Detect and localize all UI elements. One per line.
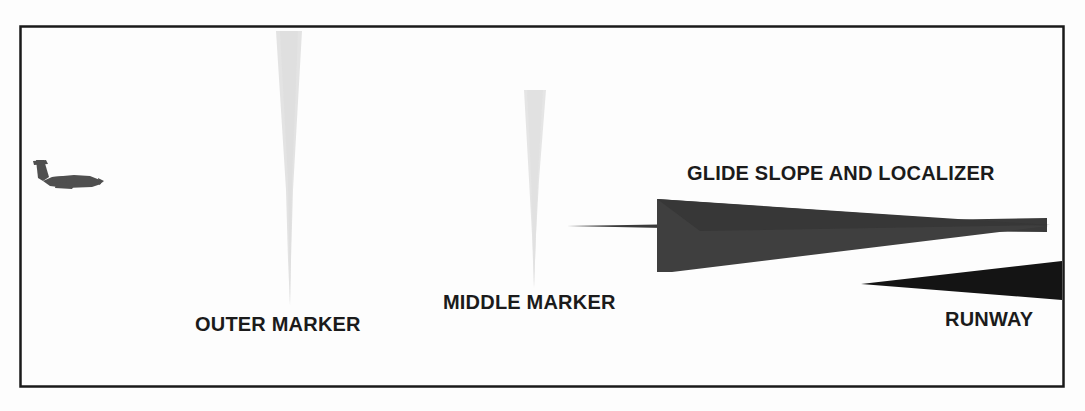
aircraft-icon: [33, 160, 104, 189]
middle-marker-cone: [524, 90, 546, 288]
label-outer-marker: OUTER MARKER: [195, 314, 361, 334]
outer-marker-cone: [276, 31, 302, 306]
diagram-canvas: [0, 0, 1085, 411]
diagram-border: [21, 27, 1064, 387]
ils-approach-diagram: OUTER MARKER MIDDLE MARKER GLIDE SLOPE A…: [0, 0, 1085, 411]
runway-wedge: [861, 261, 1062, 300]
label-runway: RUNWAY: [945, 309, 1033, 329]
label-middle-marker: MIDDLE MARKER: [443, 292, 616, 312]
glide-slope-cone: [657, 199, 1050, 272]
label-glide-slope-and-localizer: GLIDE SLOPE AND LOCALIZER: [687, 163, 995, 183]
